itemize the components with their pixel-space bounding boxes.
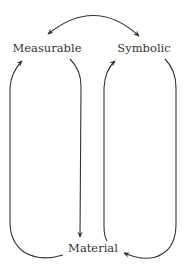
loop-material-to-measurable [10,61,63,258]
node-symbolic: Symbolic [117,41,170,55]
node-measurable: Measurable [13,41,82,55]
node-material: Material [68,241,118,255]
arrow-measurable-to-material [70,59,81,237]
diagram-canvas: Measurable Symbolic Material [0,0,187,278]
loop-symbolic-to-material [124,59,176,258]
arrow-material-to-symbolic [104,61,115,241]
arc-measurable-symbolic [48,15,139,36]
